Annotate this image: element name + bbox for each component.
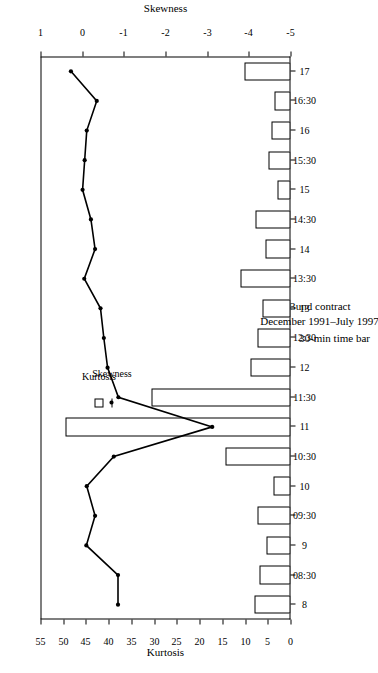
skewness-point-15:30 (82, 158, 86, 162)
legend-label-skewness: Skewness (92, 367, 131, 380)
kurtosis-tick-label-45: 45 (75, 636, 95, 646)
kurtosis-tick (154, 619, 155, 624)
x-axis-title: 30-min time bar (294, 332, 374, 344)
kurtosis-tick-label-25: 25 (166, 636, 186, 646)
skewness-tick (40, 51, 41, 56)
kurtosis-tick (63, 619, 64, 624)
kurtosis-tick (222, 619, 223, 624)
x-tick-label-15: 15 (290, 184, 318, 194)
x-tick-label-14:30: 14:30 (290, 214, 318, 224)
x-tick-label-14: 14 (290, 244, 318, 254)
skewness-point-17 (68, 69, 72, 73)
x-tick-label-17: 17 (290, 66, 318, 76)
kurtosis-tick-label-0: 0 (280, 636, 300, 646)
kurtosis-tick (199, 619, 200, 624)
kurtosis-tick-label-20: 20 (189, 636, 209, 646)
skewness-point-09:30 (92, 513, 96, 517)
x-tick-label-13:30: 13:30 (290, 273, 318, 283)
skewness-point-14:30 (88, 217, 92, 221)
x-tick-label-12: 12 (290, 362, 318, 372)
skewness-tick-label-0: 0 (72, 27, 92, 37)
plot-area: 808:30909:301010:301111:301212:301313:30… (40, 56, 290, 619)
kurtosis-tick-label-35: 35 (121, 636, 141, 646)
kurtosis-tick (176, 619, 177, 624)
skewness-point-15 (80, 187, 84, 191)
skewness-axis-title: Skewness (142, 1, 188, 13)
x-tick-label-16: 16 (290, 125, 318, 135)
x-tick-label-15:30: 15:30 (290, 155, 318, 165)
kurtosis-tick (245, 619, 246, 624)
line-swatch-icon (107, 398, 116, 407)
kurtosis-axis-title: Kurtosis (145, 645, 185, 657)
x-tick-label-11:30: 11:30 (290, 392, 318, 402)
skewness-point-8 (115, 602, 119, 606)
skewness-point-12:30 (101, 335, 105, 339)
kurtosis-tick (267, 619, 268, 624)
legend: Kurtosis Skewness (92, 354, 118, 407)
kurtosis-tick-label-30: 30 (144, 636, 164, 646)
kurtosis-tick-label-50: 50 (53, 636, 73, 646)
skewness-tick (290, 51, 291, 56)
skewness-tick-label--1: -1 (113, 27, 133, 37)
skewness-point-14 (92, 247, 96, 251)
x-tick-label-10:30: 10:30 (290, 451, 318, 461)
x-tick-label-11: 11 (290, 421, 318, 431)
skewness-tick (165, 51, 166, 56)
skewness-tick-label--5: -5 (280, 27, 300, 37)
x-tick-label-9: 9 (290, 540, 318, 550)
skewness-tick (123, 51, 124, 56)
x-tick-label-09:30: 09:30 (290, 510, 318, 520)
skewness-tick-label-1: 1 (30, 27, 50, 37)
bar-swatch-icon (94, 398, 103, 407)
kurtosis-tick-label-5: 5 (257, 636, 277, 646)
x-tick-label-8: 8 (290, 599, 318, 609)
kurtosis-tick-label-15: 15 (212, 636, 232, 646)
skewness-tick (207, 51, 208, 56)
kurtosis-tick-label-55: 55 (30, 636, 50, 646)
x-tick-label-08:30: 08:30 (290, 570, 318, 580)
skewness-tick-label--3: -3 (197, 27, 217, 37)
kurtosis-tick (85, 619, 86, 624)
skewness-tick-label--4: -4 (238, 27, 258, 37)
x-tick-label-13: 13 (290, 303, 318, 313)
x-tick-label-16:30: 16:30 (290, 95, 318, 105)
kurtosis-tick (290, 619, 291, 624)
kurtosis-tick-label-10: 10 (235, 636, 255, 646)
legend-item-skewness: Skewness (105, 354, 118, 407)
kurtosis-tick-label-40: 40 (98, 636, 118, 646)
skewness-line (70, 71, 211, 604)
skewness-tick (82, 51, 83, 56)
x-tick-label-10: 10 (290, 481, 318, 491)
line-series-skewness (40, 56, 290, 619)
kurtosis-tick (131, 619, 132, 624)
skewness-tick-label--2: -2 (155, 27, 175, 37)
kurtosis-tick (40, 619, 41, 624)
kurtosis-tick (108, 619, 109, 624)
skewness-tick (248, 51, 249, 56)
